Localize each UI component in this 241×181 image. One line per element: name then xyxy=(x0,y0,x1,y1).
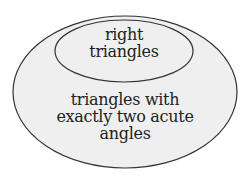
outer-label-line-2: exactly two acute xyxy=(30,108,220,125)
outer-label-line-3: angles xyxy=(30,125,220,142)
inner-label-line-2: triangles xyxy=(74,43,174,60)
inner-set-label: right triangles xyxy=(74,26,174,60)
outer-label-line-1: triangles with xyxy=(30,91,220,108)
inner-label-line-1: right xyxy=(74,26,174,43)
outer-set-label: triangles with exactly two acute angles xyxy=(30,91,220,142)
